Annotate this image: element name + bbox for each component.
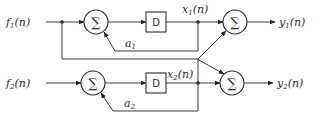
output-y2-label: y2(n) [276,77,303,91]
svg-text:D: D [152,17,160,28]
svg-text:a1: a1 [125,37,136,51]
gain-a1-label: a1 [125,37,136,51]
cross-x2-to-sum2 [198,31,226,83]
delay-block-2: D [146,73,166,93]
input-f2-label: f2(n) [5,77,30,91]
block-diagram: f1(n) ∑ D x1(n) ∑ y1(n) a1 f2(n) ∑ [0,0,320,119]
svg-text:f1(n): f1(n) [5,16,30,30]
svg-text:x1(n): x1(n) [182,3,208,17]
gain-a2-label: a2 [124,97,136,111]
input-f1-label: f1(n) [5,16,30,30]
output-y1-label: y1(n) [278,16,305,30]
svg-text:y1(n): y1(n) [278,16,305,30]
svg-text:f2(n): f2(n) [5,77,30,91]
summer-1: ∑ [84,10,108,34]
svg-text:y2(n): y2(n) [276,77,303,91]
svg-text:∑: ∑ [230,15,240,30]
summer-3: ∑ [81,71,105,95]
summer-4: ∑ [220,71,244,95]
svg-text:∑: ∑ [91,15,101,30]
state-x2-label: x2(n) [167,68,193,82]
summer-2: ∑ [223,10,247,34]
delay-block-1: D [146,12,166,32]
state-x1-label: x1(n) [182,3,208,17]
svg-text:∑: ∑ [227,76,237,91]
svg-text:x2(n): x2(n) [167,68,193,82]
svg-text:a2: a2 [124,97,136,111]
svg-text:D: D [152,78,160,89]
svg-text:∑: ∑ [88,76,98,91]
